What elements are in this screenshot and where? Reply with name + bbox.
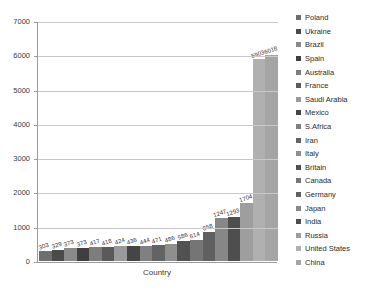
legend-swatch-icon	[296, 165, 301, 170]
gridline	[38, 56, 278, 57]
legend-item[interactable]: Canada	[296, 174, 368, 188]
legend-item[interactable]: Australia	[296, 65, 368, 79]
legend-item-label: Poland	[305, 13, 328, 22]
legend-item[interactable]: Italy	[296, 147, 368, 161]
legend-item[interactable]: India	[296, 215, 368, 229]
bar[interactable]: 424	[114, 246, 127, 261]
bar-value-label: 486	[164, 235, 176, 245]
bar-value-label: 424	[114, 237, 126, 247]
legend-item[interactable]: France	[296, 79, 368, 93]
legend-item-label: Britain	[305, 163, 326, 172]
y-axis-tick-label: 6000	[13, 52, 30, 60]
legend-item[interactable]: China	[296, 256, 368, 270]
legend-swatch-icon	[296, 29, 301, 34]
bar-value-label: 373	[76, 239, 88, 249]
bar[interactable]: 614	[190, 240, 203, 261]
legend-item-label: India	[305, 217, 321, 226]
bar[interactable]: 1293	[228, 217, 241, 261]
bar[interactable]: 486	[165, 244, 178, 261]
bar[interactable]: 418	[102, 247, 115, 261]
legend-item-label: Germany	[305, 190, 336, 199]
bar[interactable]: 303	[39, 251, 52, 261]
legend-item[interactable]: Brazil	[296, 38, 368, 52]
legend-item[interactable]: Poland	[296, 11, 368, 25]
bar[interactable]: 1247	[215, 218, 228, 261]
legend-item-label: Russia	[305, 231, 328, 240]
y-axis-tick-label: 1000	[13, 224, 30, 232]
legend-item-label: Mexico	[305, 108, 329, 117]
gridline	[38, 125, 278, 126]
legend: PolandUkraineBrazilSpainAustraliaFranceS…	[296, 11, 368, 269]
legend-swatch-icon	[296, 206, 301, 211]
legend-swatch-icon	[296, 138, 301, 143]
bar[interactable]: 373	[64, 248, 77, 261]
legend-item[interactable]: Germany	[296, 188, 368, 202]
plot-area: 3033293733734174184244364444714865866148…	[37, 22, 277, 263]
legend-item[interactable]: Mexico	[296, 106, 368, 120]
legend-item-label: United States	[305, 244, 350, 253]
legend-item[interactable]: S.Africa	[296, 120, 368, 134]
legend-item[interactable]: Russia	[296, 229, 368, 243]
plot-area-wrapper: 01000200030004000500060007000 3033293733…	[0, 0, 285, 290]
legend-item[interactable]: Saudi Arabia	[296, 93, 368, 107]
x-axis-title: Country	[37, 268, 277, 277]
legend-item-label: Ukraine	[305, 27, 331, 36]
legend-item-label: Canada	[305, 176, 331, 185]
bar-value-label: 444	[139, 237, 151, 247]
legend-swatch-icon	[296, 178, 301, 183]
y-axis-tick-label: 5000	[13, 87, 30, 95]
bar-value-label: 614	[189, 231, 201, 241]
legend-item-label: Japan	[305, 204, 325, 213]
legend-item-label: China	[305, 258, 325, 267]
legend-item-label: Saudi Arabia	[305, 95, 348, 104]
bar-value-label: 6018	[263, 45, 278, 56]
bar-value-label: 373	[64, 239, 76, 249]
y-axis-tick-label: 7000	[13, 18, 30, 26]
legend-swatch-icon	[296, 70, 301, 75]
legend-swatch-icon	[296, 42, 301, 47]
legend-swatch-icon	[296, 15, 301, 20]
y-axis: 01000200030004000500060007000	[0, 0, 34, 290]
legend-swatch-icon	[296, 219, 301, 224]
legend-item-label: Spain	[305, 54, 324, 63]
legend-swatch-icon	[296, 151, 301, 156]
legend-swatch-icon	[296, 246, 301, 251]
bar-value-label: 417	[89, 237, 101, 247]
legend-item[interactable]: Spain	[296, 52, 368, 66]
legend-item-label: Iran	[305, 136, 318, 145]
legend-item[interactable]: Ukraine	[296, 25, 368, 39]
legend-item[interactable]: Japan	[296, 201, 368, 215]
bar[interactable]: 436	[127, 246, 140, 261]
bar[interactable]: 417	[89, 247, 102, 261]
legend-swatch-icon	[296, 83, 301, 88]
bar[interactable]: 1704	[240, 203, 253, 261]
bar-value-label: 436	[126, 237, 138, 247]
bar[interactable]: 444	[140, 246, 153, 261]
gridline	[38, 193, 278, 194]
bar[interactable]: 471	[152, 245, 165, 261]
bar[interactable]: 6018	[265, 55, 278, 261]
legend-item-label: S.Africa	[305, 122, 331, 131]
legend-item[interactable]: United States	[296, 242, 368, 256]
gridline	[38, 91, 278, 92]
legend-swatch-icon	[296, 56, 301, 61]
legend-swatch-icon	[296, 192, 301, 197]
legend-item-label: France	[305, 81, 328, 90]
bar-value-label: 303	[38, 241, 50, 251]
bar[interactable]: 586	[177, 241, 190, 261]
legend-item[interactable]: Iran	[296, 133, 368, 147]
legend-item-label: Italy	[305, 149, 319, 158]
bar-value-label: 1293	[225, 207, 240, 218]
bar[interactable]: 329	[52, 250, 65, 261]
bar-value-label: 471	[152, 236, 164, 246]
legend-item[interactable]: Britain	[296, 161, 368, 175]
bar-value-label: 1704	[238, 193, 253, 204]
legend-item-label: Brazil	[305, 40, 324, 49]
bar[interactable]: 373	[77, 248, 90, 261]
bar-value-label: 586	[177, 232, 189, 242]
legend-item-label: Australia	[305, 68, 334, 77]
y-axis-tick-label: 4000	[13, 121, 30, 129]
legend-swatch-icon	[296, 110, 301, 115]
bar-value-label: 418	[101, 237, 113, 247]
bar[interactable]: 858	[203, 232, 216, 261]
